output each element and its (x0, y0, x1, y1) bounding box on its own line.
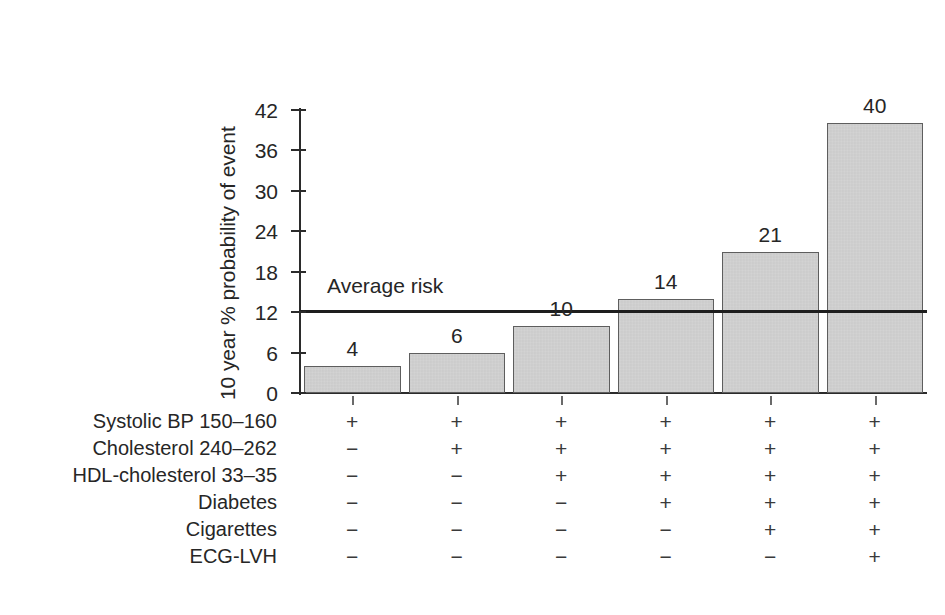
risk-factor-present-mark: + (855, 489, 895, 516)
risk-factor-absent-mark: − (646, 543, 686, 570)
risk-factor-absent-mark: − (437, 516, 477, 543)
y-axis-tick-label: 18 (232, 262, 278, 283)
y-axis-tick-label: 30 (232, 181, 278, 202)
y-axis-tick-label: 6 (232, 343, 278, 364)
bar-value-label: 21 (722, 224, 819, 245)
risk-factor-present-mark: + (855, 543, 895, 570)
table-row: Diabetes−−−+++ (0, 489, 945, 516)
table-row: Cigarettes−−−−++ (0, 516, 945, 543)
risk-factor-row-label: Systolic BP 150–160 (0, 408, 277, 435)
table-row: Cholesterol 240–262−+++++ (0, 435, 945, 462)
risk-factor-present-mark: + (750, 435, 790, 462)
risk-factor-row-label: Cholesterol 240–262 (0, 435, 277, 462)
risk-factor-absent-mark: − (437, 543, 477, 570)
y-axis-tick-mark (291, 271, 306, 273)
risk-factor-present-mark: + (855, 435, 895, 462)
y-axis-tick-mark (291, 190, 306, 192)
y-axis-tick-mark (291, 311, 306, 313)
risk-factor-present-mark: + (750, 516, 790, 543)
x-axis-tick-mark (352, 396, 354, 405)
bar-value-label: 14 (618, 271, 715, 292)
y-axis-tick-label: 24 (232, 221, 278, 242)
y-axis-tick-label: 36 (232, 140, 278, 161)
risk-factor-present-mark: + (646, 489, 686, 516)
risk-factor-table: Systolic BP 150–160++++++Cholesterol 240… (0, 408, 945, 608)
risk-factor-present-mark: + (437, 408, 477, 435)
risk-factor-absent-mark: − (541, 543, 581, 570)
table-row: Systolic BP 150–160++++++ (0, 408, 945, 435)
risk-factor-absent-mark: − (332, 435, 372, 462)
risk-factor-row-label: Cigarettes (0, 516, 277, 543)
y-axis-tick-label: 12 (232, 302, 278, 323)
risk-factor-present-mark: + (541, 408, 581, 435)
x-axis-tick-mark (666, 396, 668, 405)
risk-factor-bar-chart: 10 year % probability of event 061218243… (0, 0, 945, 615)
average-risk-line (299, 310, 927, 313)
y-axis-tick-label: 42 (232, 100, 278, 121)
risk-factor-present-mark: + (541, 435, 581, 462)
x-axis-tick-mark (457, 396, 459, 405)
bar-value-label: 6 (409, 325, 506, 346)
risk-factor-absent-mark: − (541, 489, 581, 516)
y-axis-tick-mark (291, 392, 306, 394)
bar (513, 326, 610, 393)
risk-factor-present-mark: + (855, 462, 895, 489)
y-axis-tick-mark (291, 149, 306, 151)
risk-factor-present-mark: + (855, 408, 895, 435)
risk-factor-present-mark: + (437, 435, 477, 462)
bar-value-label: 4 (304, 338, 401, 359)
risk-factor-absent-mark: − (332, 543, 372, 570)
bar (409, 353, 506, 393)
table-row: HDL-cholesterol 33–35−−++++ (0, 462, 945, 489)
risk-factor-absent-mark: − (332, 489, 372, 516)
risk-factor-present-mark: + (541, 462, 581, 489)
x-axis-tick-mark (561, 396, 563, 405)
risk-factor-present-mark: + (750, 462, 790, 489)
risk-factor-present-mark: + (646, 435, 686, 462)
average-risk-label: Average risk (327, 275, 443, 296)
table-row: ECG-LVH−−−−−+ (0, 543, 945, 570)
risk-factor-absent-mark: − (437, 462, 477, 489)
y-axis-tick-mark (291, 109, 306, 111)
risk-factor-absent-mark: − (332, 462, 372, 489)
x-axis-tick-mark (770, 396, 772, 405)
risk-factor-row-label: Diabetes (0, 489, 277, 516)
bar (618, 299, 715, 393)
bar-value-label: 40 (827, 95, 924, 116)
risk-factor-present-mark: + (332, 408, 372, 435)
bar-value-label: 10 (513, 298, 610, 319)
risk-factor-present-mark: + (750, 408, 790, 435)
risk-factor-absent-mark: − (437, 489, 477, 516)
risk-factor-absent-mark: − (541, 516, 581, 543)
risk-factor-present-mark: + (646, 408, 686, 435)
bar (722, 252, 819, 394)
risk-factor-absent-mark: − (332, 516, 372, 543)
risk-factor-present-mark: + (646, 462, 686, 489)
risk-factor-absent-mark: − (750, 543, 790, 570)
risk-factor-present-mark: + (750, 489, 790, 516)
risk-factor-row-label: ECG-LVH (0, 543, 277, 570)
risk-factor-present-mark: + (855, 516, 895, 543)
risk-factor-row-label: HDL-cholesterol 33–35 (0, 462, 277, 489)
x-axis-tick-mark (875, 396, 877, 405)
bar (827, 123, 924, 393)
y-axis-tick-mark (291, 230, 306, 232)
risk-factor-absent-mark: − (646, 516, 686, 543)
bar (304, 366, 401, 393)
y-axis-tick-label: 0 (232, 383, 278, 404)
